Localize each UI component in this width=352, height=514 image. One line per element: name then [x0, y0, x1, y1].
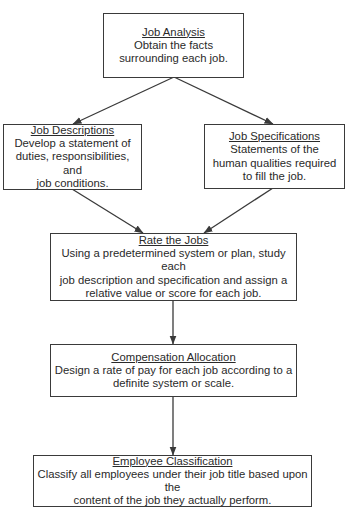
node-title: Job Descriptions [31, 124, 115, 137]
node-title: Employee Classification [113, 455, 233, 468]
node-rate-the-jobs: Rate the Jobs Using a predetermined syst… [50, 233, 297, 301]
node-body: Design a rate of pay for each job accord… [55, 364, 292, 390]
node-body: Statements of the human qualities requir… [213, 143, 337, 183]
node-job-descriptions: Job Descriptions Develop a statement of … [3, 124, 142, 190]
node-title: Compensation Allocation [111, 351, 235, 364]
arrow-analysis-to-specifications [174, 77, 273, 124]
node-title: Job Analysis [142, 26, 205, 39]
node-title: Job Specifications [229, 130, 320, 143]
arrow-analysis-to-descriptions [73, 77, 174, 124]
node-body: Develop a statement of duties, responsib… [7, 137, 138, 190]
node-body: Classify all employees under their job t… [37, 468, 308, 508]
arrow-specifications-to-rate [204, 188, 273, 233]
node-employee-classification: Employee Classification Classify all emp… [33, 455, 312, 507]
node-body: Obtain the facts surrounding each job. [119, 39, 228, 65]
node-compensation-allocation: Compensation Allocation Design a rate of… [50, 344, 297, 397]
node-body: Using a predetermined system or plan, st… [54, 247, 293, 300]
node-job-specifications: Job Specifications Statements of the hum… [204, 124, 345, 189]
node-job-analysis: Job Analysis Obtain the facts surroundin… [103, 13, 244, 78]
arrow-descriptions-to-rate [72, 189, 143, 233]
node-title: Rate the Jobs [139, 234, 209, 247]
